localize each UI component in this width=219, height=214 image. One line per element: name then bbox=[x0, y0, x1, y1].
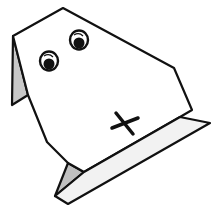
origami-drawing bbox=[0, 0, 219, 214]
right-eye bbox=[70, 31, 88, 50]
left-eye bbox=[40, 52, 58, 71]
origami-illustration bbox=[0, 0, 219, 214]
